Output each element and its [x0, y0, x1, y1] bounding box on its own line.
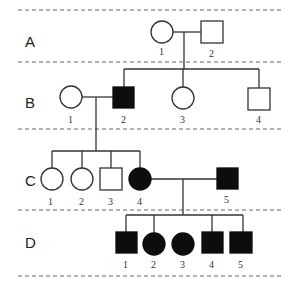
individual-label: 2 — [151, 259, 156, 270]
individual-label: 1 — [68, 114, 73, 125]
individual-label: 4 — [137, 196, 142, 207]
generation-label-a: A — [25, 33, 35, 50]
individual-label: 2 — [79, 196, 84, 207]
pedigree-chart: A B C D 1 2 1 2 3 4 1 2 3 4 5 1 2 3 4 — [0, 0, 296, 291]
individual-d3-female-affected — [172, 233, 194, 255]
individual-label: 2 — [209, 48, 214, 59]
individual-a2-male — [201, 21, 223, 43]
individual-c5-male-affected — [217, 168, 238, 189]
individual-label: 4 — [209, 259, 214, 270]
individual-b4-male — [248, 88, 270, 110]
individual-c2-female — [71, 168, 93, 190]
individual-label: 1 — [159, 46, 164, 57]
generation-label-b: B — [25, 94, 35, 111]
individual-label: 3 — [180, 259, 185, 270]
individual-label: 1 — [48, 196, 53, 207]
individual-b2-male-affected — [113, 87, 134, 108]
individual-d1-male-affected — [116, 232, 137, 253]
individual-a1-female — [151, 21, 173, 43]
individual-label: 3 — [180, 114, 185, 125]
generation-label-d: D — [25, 234, 36, 251]
generation-label-c: C — [25, 172, 36, 189]
individual-label: 2 — [121, 114, 126, 125]
individual-label: 1 — [123, 259, 128, 270]
individual-b3-female — [172, 87, 194, 109]
individual-label: 5 — [224, 194, 229, 205]
individual-d5-male-affected — [230, 232, 252, 253]
individual-c3-male — [100, 168, 122, 190]
individual-c4-female-affected — [129, 168, 151, 190]
individual-b1-female — [60, 86, 82, 108]
individual-d2-female-affected — [143, 233, 165, 255]
individual-d4-male-affected — [202, 232, 223, 253]
individual-label: 5 — [238, 259, 243, 270]
individual-label: 3 — [108, 196, 113, 207]
individual-label: 4 — [256, 114, 261, 125]
individual-c1-female — [41, 168, 63, 190]
